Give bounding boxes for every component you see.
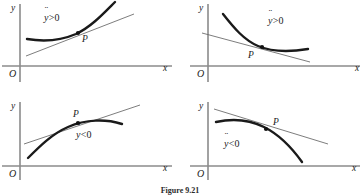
y-symbol: ¨y [76,129,81,140]
curve [28,121,122,158]
condition-value: 0 [278,15,283,26]
panel-top-left: y x O P ¨y>0 [0,0,180,96]
y-axis-label: y [10,3,16,13]
y-symbol: ¨y [224,138,229,149]
point-label-P: P [81,34,88,44]
panel-top-right: y x O P ¨y>0 [180,0,360,96]
tangent-line [26,14,134,56]
x-axis-label: x [162,163,168,173]
condition-value: 0 [86,129,91,140]
condition-label: ¨y>0 [44,12,60,23]
condition-value: 0 [54,12,59,23]
origin-label: O [9,68,16,79]
origin-label: O [197,168,204,179]
double-dot-accent-icon: ¨ [77,123,81,133]
tangency-point [260,45,264,49]
tangency-point [76,31,80,35]
double-dot-accent-icon: ¨ [45,6,49,16]
tangency-point [264,127,268,131]
y-axis-label: y [198,101,204,111]
curve [223,14,308,51]
condition-label: ¨y>0 [268,15,284,26]
origin-label: O [197,68,204,79]
y-axis-label: y [10,101,16,111]
tangent-line [202,33,310,62]
condition-label: ¨y<0 [224,138,240,149]
x-axis-label: x [354,63,360,73]
figure-container: y x O P ¨y>0 y x O P ¨y>0 [0,0,360,195]
double-dot-accent-icon: ¨ [269,9,273,19]
condition-label: ¨y<0 [76,129,92,140]
panel-bottom-right: y x O P ¨y<0 [180,96,360,192]
double-dot-accent-icon: ¨ [225,132,229,142]
curve [27,2,115,40]
origin-label: O [9,168,16,179]
condition-value: 0 [234,138,239,149]
point-label-P: P [247,50,254,60]
point-label-P: P [72,109,79,119]
figure-caption: Figure 9.21 [0,186,360,195]
panel-bottom-left: y x O P ¨y<0 [0,96,180,192]
y-symbol: ¨y [268,15,273,26]
x-axis-label: x [351,163,357,173]
y-symbol: ¨y [44,12,49,23]
point-label-P: P [272,117,279,127]
x-axis-label: x [162,63,168,73]
y-axis-label: y [198,3,204,13]
